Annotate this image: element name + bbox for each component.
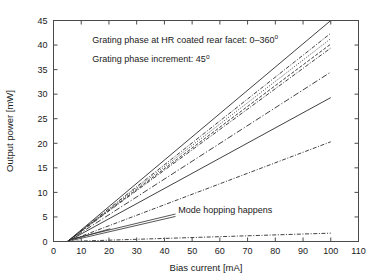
y-tick-label-40: 40 (37, 40, 47, 50)
x-tick-label-0: 0 (51, 246, 56, 256)
annotation-leader-lines (72, 214, 176, 241)
annotation-grating-phase-range: Grating phase at HR coated rear facet: 0… (92, 33, 278, 44)
y-tick-label-30: 30 (37, 89, 47, 99)
x-tick-label-10: 10 (76, 246, 86, 256)
x-tick-label-100: 100 (323, 246, 338, 256)
annotation-mode-hopping: Mode hopping happens (178, 205, 273, 215)
series-line-phase-270 (67, 98, 330, 242)
y-tick-label-35: 35 (37, 65, 47, 75)
y-tick-label-15: 15 (37, 163, 47, 173)
series-line-phase-315 (67, 142, 330, 242)
x-tick-label-60: 60 (215, 246, 225, 256)
annotation-grating-phase-increment: Grating phase increment: 45o (92, 53, 210, 64)
y-tick-label-5: 5 (42, 212, 47, 222)
x-tick-label-20: 20 (104, 246, 114, 256)
x-tick-label-40: 40 (159, 246, 169, 256)
x-tick-label-80: 80 (270, 246, 280, 256)
x-axis-tick-labels: 0102030405060708090100110 (51, 246, 366, 256)
x-tick-label-50: 50 (187, 246, 197, 256)
y-tick-label-0: 0 (42, 237, 47, 247)
figure-container: 0102030405060708090100110 05101520253035… (0, 0, 384, 279)
x-tick-label-90: 90 (298, 246, 308, 256)
li-curve-chart: 0102030405060708090100110 05101520253035… (0, 0, 384, 279)
x-tick-label-110: 110 (351, 246, 365, 256)
x-axis-title: Bias current [mA] (170, 262, 243, 273)
x-tick-label-30: 30 (132, 246, 142, 256)
y-tick-label-25: 25 (37, 114, 47, 124)
series-line-phase-360 (67, 233, 330, 241)
y-tick-label-45: 45 (37, 16, 47, 26)
x-tick-label-70: 70 (243, 246, 253, 256)
y-axis-tick-labels: 051015202530354045 (37, 16, 47, 247)
y-tick-label-20: 20 (37, 139, 47, 149)
y-axis-title: Output power [mW] (4, 90, 15, 172)
y-tick-label-10: 10 (37, 188, 47, 198)
